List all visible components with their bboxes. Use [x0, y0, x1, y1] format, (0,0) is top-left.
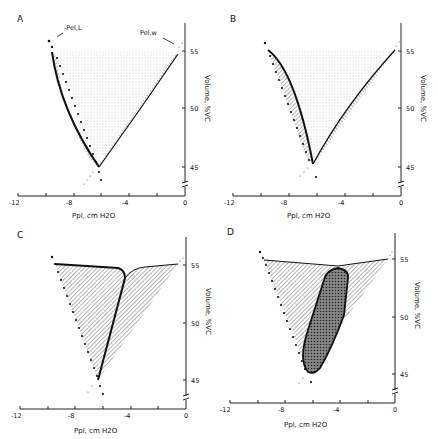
xtick: -4: [338, 199, 344, 207]
xtick: -8: [278, 406, 284, 414]
xtick: -8: [68, 412, 74, 420]
ytick: 55: [190, 48, 198, 56]
xtick: -12: [220, 406, 231, 414]
ytick: 50: [406, 105, 414, 113]
panel-d: D 55 50 45 -12 -8 -4 0 Ppl, cm H2O Volum…: [220, 220, 439, 439]
ytick: 45: [191, 377, 199, 385]
panel-letter: D: [227, 227, 234, 237]
xtick: -4: [124, 412, 130, 420]
y-axis-label: Volume, %VC: [419, 75, 427, 122]
ytick: 50: [190, 105, 198, 113]
xtick: 0: [393, 406, 397, 414]
xtick: -4: [122, 199, 128, 207]
panel-a-chart: A -Pel,L Pel,w 55 50 45: [0, 0, 220, 220]
ytick: 45: [406, 164, 414, 172]
ytick: 55: [400, 256, 408, 264]
x-axis-label: Ppl, cm H2O: [284, 421, 328, 429]
xtick: 0: [184, 412, 188, 420]
panel-letter: A: [17, 14, 24, 24]
x-axis-label: Ppl, cm H2O: [72, 212, 116, 220]
ytick: 45: [400, 371, 408, 379]
x-axis-label: Ppl, cm H2O: [287, 212, 331, 220]
panel-b-chart: B 55 50 45 -12 -8 -4 0 Ppl, cm H2O Volum…: [220, 0, 439, 220]
y-axis-label: Volume, %VC: [203, 75, 211, 122]
x-axis-label: Ppl, cm H2O: [74, 427, 118, 435]
y-axis-label: Volume, %VC: [413, 282, 421, 329]
panel-c-chart: C 55 50 45 -12 -8 -4 0 Ppl, cm H2O Volum…: [0, 220, 220, 439]
y-axis-label: Volume, %VC: [204, 288, 212, 335]
annotation-pel-l: -Pel,L: [64, 24, 82, 32]
panel-a: A -Pel,L Pel,w 55 50 45: [0, 0, 220, 220]
xtick: -12: [9, 199, 20, 207]
panel-letter: C: [17, 230, 23, 240]
ytick: 55: [406, 48, 414, 56]
xtick: 0: [183, 199, 187, 207]
xtick: -8: [66, 199, 72, 207]
annotation-pel-w: Pel,w: [140, 29, 158, 37]
xtick: -12: [224, 199, 235, 207]
xtick: -12: [11, 412, 22, 420]
xtick: -4: [333, 406, 339, 414]
ytick: 50: [400, 314, 408, 322]
xtick: 0: [399, 199, 403, 207]
ytick: 55: [191, 262, 199, 270]
panel-c: C 55 50 45 -12 -8 -4 0 Ppl, cm H2O Volum…: [0, 220, 220, 439]
panel-d-chart: D 55 50 45 -12 -8 -4 0 Ppl, cm H2O Volum…: [220, 220, 439, 439]
panel-b: B 55 50 45 -12 -8 -4 0 Ppl, cm H2O Volum…: [220, 0, 439, 220]
xtick: -8: [281, 199, 287, 207]
ytick: 45: [190, 164, 198, 172]
ytick: 50: [191, 320, 199, 328]
panel-letter: B: [230, 14, 236, 24]
